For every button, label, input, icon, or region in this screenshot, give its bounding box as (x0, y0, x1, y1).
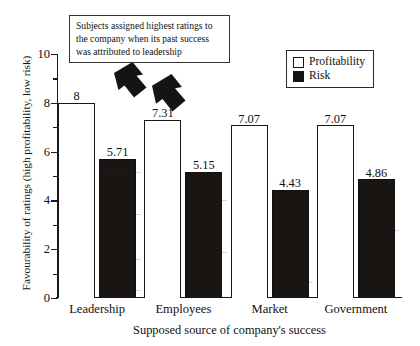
annotation-callout-box: Subjects assigned highest ratings to the… (69, 15, 230, 63)
y-tick-label: 10 (37, 48, 50, 61)
y-tick-mark-minor (53, 225, 58, 226)
scan-artifact-line (103, 214, 141, 215)
bar-chart-figure: Favourability of ratings (high profitabi… (0, 0, 420, 346)
scan-artifact-line (189, 200, 227, 201)
y-tick-mark-minor (53, 176, 58, 177)
open-square-swatch-icon (293, 57, 304, 68)
bar-value-label: 7.07 (238, 113, 260, 125)
y-tick-mark (51, 54, 58, 55)
annotation-line-1: Subjects assigned highest ratings to (76, 20, 224, 33)
y-axis-title: Favourability of ratings (high profitabi… (20, 48, 32, 298)
category-label-employees: Employees (155, 303, 211, 316)
legend-label-profitability: Profitability (309, 56, 365, 68)
bar-government-risk: 4.86 (358, 179, 395, 298)
chart-legend: Profitability Risk (286, 50, 374, 88)
x-axis-title: Supposed source of company's success (57, 323, 402, 338)
scan-artifact-line (361, 230, 399, 231)
bar-government-profitability: 7.07 (317, 125, 354, 298)
bar-employees-profitability: 7.31 (144, 120, 181, 298)
y-tick-label: 0 (44, 292, 50, 305)
y-tick-mark-minor (53, 127, 58, 128)
bar-leadership-profitability: 8 (58, 103, 95, 298)
bar-employees-risk: 5.15 (185, 172, 222, 298)
scan-artifact-line (275, 282, 313, 283)
scan-artifact-line (103, 259, 141, 260)
y-tick-label: 6 (44, 145, 50, 158)
y-tick-mark (51, 249, 58, 250)
annotation-line-2: the company when its past success (76, 33, 224, 46)
y-tick-mark (51, 200, 58, 201)
y-tick-mark-minor (53, 78, 58, 79)
y-tick-mark-minor (53, 274, 58, 275)
y-tick-mark (51, 152, 58, 153)
filled-square-swatch-icon (293, 71, 304, 82)
bar-leadership-risk: 5.71 (99, 159, 136, 298)
y-tick-label: 4 (44, 194, 50, 207)
legend-item-risk: Risk (293, 69, 365, 83)
plot-area: 0246810 85.717.315.157.074.437.074.86 Le… (57, 54, 402, 298)
bar-value-label: 7.31 (152, 107, 174, 119)
scan-artifact-line (189, 252, 227, 253)
annotation-line-3: was attributed to leadership (76, 46, 224, 59)
legend-label-risk: Risk (309, 70, 330, 82)
category-label-leadership: Leadership (69, 303, 125, 316)
bar-value-label: 4.43 (279, 177, 301, 189)
bar-value-label: 4.86 (366, 167, 388, 179)
legend-item-profitability: Profitability (293, 55, 365, 69)
category-label-market: Market (251, 303, 287, 316)
category-label-government: Government (324, 303, 387, 316)
y-tick-mark (51, 103, 58, 104)
bar-value-label: 5.71 (107, 146, 129, 158)
y-tick-label: 8 (44, 97, 50, 110)
y-tick-label: 2 (44, 243, 50, 256)
bar-value-label: 5.15 (193, 159, 215, 171)
scan-artifact-line (103, 172, 141, 173)
scan-artifact-line (103, 290, 141, 291)
y-tick-mark (51, 298, 58, 299)
bar-value-label: 7.07 (325, 113, 347, 125)
bar-value-label: 8 (74, 90, 80, 102)
bar-market-profitability: 7.07 (231, 125, 268, 298)
